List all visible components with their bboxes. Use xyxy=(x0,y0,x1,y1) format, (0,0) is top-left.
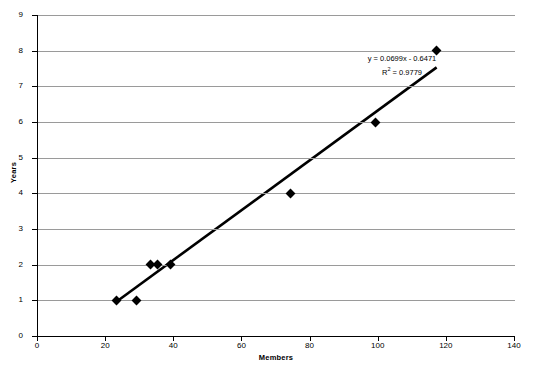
r-squared-line: R2 = 0.9779 xyxy=(350,64,454,78)
x-tick-mark xyxy=(514,337,515,341)
x-tick-mark xyxy=(310,337,311,341)
data-point xyxy=(285,188,295,198)
y-tick-label: 7 xyxy=(19,82,23,90)
gridline xyxy=(38,229,515,230)
x-tick-label: 100 xyxy=(371,342,384,350)
y-tick-label: 8 xyxy=(19,47,23,55)
trendline-equation-label: y = 0.0699x - 0.6471 R2 = 0.9779 xyxy=(350,54,454,78)
gridline xyxy=(38,122,515,123)
x-tick-label: 120 xyxy=(439,342,452,350)
gridline xyxy=(38,51,515,52)
y-tick-label: 4 xyxy=(19,189,23,197)
y-tick-label: 0 xyxy=(19,332,23,340)
data-point xyxy=(111,295,121,305)
data-point xyxy=(152,260,162,270)
scatter-chart: 0123456789 Years 020406080100120140 Memb… xyxy=(0,0,536,374)
y-tick-label: 1 xyxy=(19,296,23,304)
y-axis-title: Years xyxy=(9,143,18,203)
x-axis-ticks: 020406080100120140 xyxy=(37,337,515,353)
data-point xyxy=(370,117,380,127)
gridline xyxy=(38,86,515,87)
regression-equation: y = 0.0699x - 0.6471 xyxy=(350,54,454,64)
x-tick-label: 140 xyxy=(507,342,520,350)
x-tick-label: 40 xyxy=(169,342,178,350)
data-point xyxy=(132,295,142,305)
gridline xyxy=(38,300,515,301)
x-axis-title: Members xyxy=(37,353,515,362)
x-tick-mark xyxy=(378,337,379,341)
x-tick-label: 0 xyxy=(35,342,39,350)
x-tick-mark xyxy=(241,337,242,341)
gridline xyxy=(38,193,515,194)
x-tick-label: 60 xyxy=(237,342,246,350)
data-point xyxy=(166,260,176,270)
x-tick-mark xyxy=(105,337,106,341)
x-tick-mark xyxy=(37,337,38,341)
y-tick-label: 2 xyxy=(19,261,23,269)
x-tick-mark xyxy=(173,337,174,341)
gridline xyxy=(38,265,515,266)
gridline xyxy=(38,158,515,159)
y-tick-label: 3 xyxy=(19,225,23,233)
gridline xyxy=(38,15,515,16)
x-tick-label: 20 xyxy=(101,342,110,350)
r-squared-value: = 0.9779 xyxy=(390,68,422,77)
y-tick-label: 6 xyxy=(19,118,23,126)
y-tick-label: 9 xyxy=(19,11,23,19)
y-tick-label: 5 xyxy=(19,154,23,162)
x-tick-label: 80 xyxy=(305,342,314,350)
x-tick-mark xyxy=(446,337,447,341)
